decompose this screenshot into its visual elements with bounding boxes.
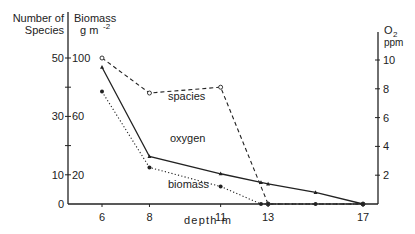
x-tick-label: 13 — [262, 211, 274, 223]
marker-open-circle — [219, 85, 223, 89]
species-tick-label: 50 — [52, 52, 64, 64]
species-axis-title-line1: Number of — [13, 12, 65, 24]
oxygen-tick-label: 10 — [383, 54, 395, 66]
x-axis-title: depth m — [184, 214, 232, 226]
oxygen-axis-unit: ppm — [384, 37, 403, 48]
series-layer — [100, 56, 365, 206]
oxygen-series-label: oxygen — [170, 132, 205, 144]
x-tick-label: 8 — [146, 211, 152, 223]
labels-layer: Number ofSpeciesBiomassg m-2O2ppm5010030… — [13, 12, 404, 226]
biomass-tick-label: 60 — [72, 110, 84, 122]
axes — [65, 12, 380, 207]
marker-filled-dot — [266, 202, 270, 206]
species-tick-label: 0 — [58, 198, 64, 210]
chart-svg: Number ofSpeciesBiomassg m-2O2ppm5010030… — [0, 0, 415, 234]
species-tick-label: 10 — [52, 169, 64, 181]
x-tick-label: 6 — [99, 211, 105, 223]
marker-filled-dot — [361, 202, 365, 206]
marker-filled-dot — [314, 202, 318, 206]
oxygen-tick-label: 4 — [383, 140, 389, 152]
series-line-spacies — [102, 58, 363, 204]
species-tick-label: 30 — [52, 110, 64, 122]
marker-filled-dot — [147, 166, 151, 170]
marker-filled-dot — [259, 202, 263, 206]
oxygen-axis-title: O — [384, 24, 393, 36]
species-axis-title-line2: Species — [25, 24, 65, 36]
marker-filled-dot — [219, 184, 223, 188]
oxygen-tick-label: 6 — [383, 112, 389, 124]
biomass-tick-label: 100 — [72, 52, 90, 64]
species-series-label: spacies — [168, 90, 206, 102]
oxygen-tick-label: 2 — [383, 169, 389, 181]
series-line-oxygen — [102, 67, 363, 204]
marker-filled-dot — [100, 90, 104, 94]
marker-triangle — [100, 65, 104, 69]
biomass-tick-label: 20 — [72, 169, 84, 181]
biomass-axis-title-line2: g m — [80, 24, 98, 36]
marker-open-circle — [100, 56, 104, 60]
marker-open-circle — [147, 91, 151, 95]
x-tick-label: 17 — [357, 211, 369, 223]
biomass-axis-title-superscript: -2 — [103, 22, 111, 31]
biomass-series-label: biomass — [168, 178, 209, 190]
oxygen-tick-label: 8 — [383, 83, 389, 95]
biomass-axis-title-line1: Biomass — [74, 12, 117, 24]
series-line-biomass — [102, 92, 363, 204]
depth-profile-chart: Number ofSpeciesBiomassg m-2O2ppm5010030… — [0, 0, 415, 234]
